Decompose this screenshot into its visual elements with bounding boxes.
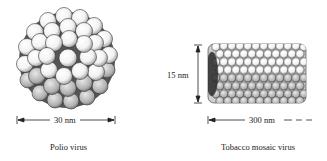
polio-caption: Polio virus (50, 142, 87, 152)
polio-virus-illustration (17, 8, 118, 110)
virus-size-diagram: 30 nm Polio virus 15 nm 300 nm Tobacco m… (0, 0, 327, 161)
polio-dimension-label: 30 nm (53, 115, 77, 125)
tmv-length-label: 300 nm (248, 115, 276, 125)
tmv-diameter-arrow (194, 45, 202, 103)
diagram-canvas (0, 0, 327, 161)
tmv-diameter-label: 15 nm (166, 70, 190, 80)
tmv-caption: Tobacco mosaic virus (221, 142, 295, 152)
tmv-illustration (206, 42, 308, 105)
